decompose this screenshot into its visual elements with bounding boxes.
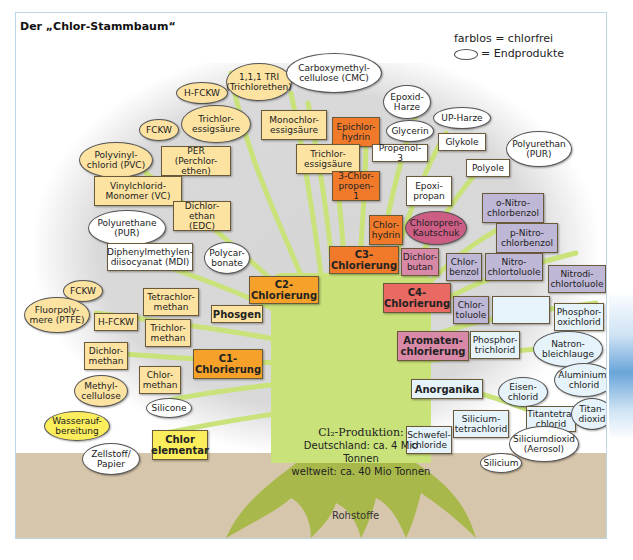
node-phosphorpentachlorid (492, 296, 550, 324)
node-polycarbonate: Polycar- bonate (204, 242, 250, 274)
legend-chlorfree: farblos = chlorfrei (454, 31, 564, 46)
legend-endproducts: = Endprodukte (481, 47, 564, 60)
node-c3-chlorierung: C3- Chlorierung (329, 246, 399, 274)
node-chlormethan: Chlor- methan (139, 366, 181, 394)
node-epoxidharze: Epoxid- Harze (383, 85, 431, 119)
node-nitrochlortoluole: Nitro- chlortoluole (485, 253, 543, 281)
node-pvc: Polyvinyl- chlorid (PVC) (79, 142, 153, 178)
node-siliciumtetrachlorid: Silicium- tetrachlorid (453, 410, 509, 438)
node-silicone: Silicone (146, 398, 192, 418)
oval-icon (454, 49, 478, 60)
node-silicium: Silicium (480, 453, 522, 473)
node-phosgen: Phosgen (211, 305, 263, 323)
diagram-frame: Der „Chlor-Stammbaum“ (15, 12, 607, 539)
node-chlorhydrin: Chlor- hydrin (369, 215, 403, 245)
node-chlorbenzol: Chlor- benzol (446, 253, 482, 281)
node-aluminiumchlorid: Aluminium- chlorid (554, 363, 607, 397)
production-summary: Cl₂-Produktion: Deutschland: ca. 4 Mio T… (291, 426, 431, 478)
node-eisenchlorid: Eisen- chlorid (498, 377, 548, 407)
node-zellstoff: Zellstoff/ Papier (82, 443, 140, 475)
node-fluorpolymere: Fluorpoly- mere (PTFE) (24, 297, 90, 333)
node-mdi: Diphenylmethylen- diisocyanat (MDI) (107, 243, 193, 271)
node-nitrodichlortoluole: Nitrodi- chlortoluole (548, 265, 606, 293)
node-chlorpropen: 3-Chlor- propen-1 (332, 171, 380, 201)
node-tetrachlormethan: Tetrachlor- methan (143, 288, 199, 316)
node-phosphortrichlorid: Phosphor- trichlorid (470, 331, 520, 359)
node-natronbleichlauge: Natron- bleichlauge (533, 331, 603, 367)
node-per: PER (Perchlor- ethen) (161, 146, 231, 176)
node-hfckw-top: H-FCKW (176, 82, 228, 104)
node-epoxipropan: Epoxi- propan (406, 176, 452, 206)
node-fckw-top: FCKW (139, 119, 179, 141)
node-epichlorhydrin: Epichlor- hydrin (332, 117, 380, 147)
node-phosphoroxichlorid: Phosphor- oxichlorid (554, 303, 604, 331)
node-pnitro: p-Nitro- chlorbenzol (496, 223, 558, 253)
node-pur-right: Polyurethan (PUR) (506, 131, 572, 167)
node-vc: Vinylchlorid- Monomer (VC) (94, 176, 182, 206)
node-dichlormethan: Dichlor- methan (84, 342, 128, 370)
node-tri: 1,1,1 TRI (Trichlorethen) (226, 63, 292, 101)
page-edge-decoration (609, 290, 633, 440)
node-onitro: o-Nitro- chlorbenzol (482, 193, 544, 223)
node-titandioxid: Titan- dioxid (571, 398, 607, 430)
node-edc: Dichlor- ethan (EDC) (173, 201, 231, 231)
node-upharze: UP-Harze (433, 107, 491, 129)
node-pur-left: Polyurethane (PUR) (88, 210, 166, 246)
node-c2-chlorierung: C2- Chlorierung (249, 276, 319, 304)
legend: farblos = chlorfrei = Endprodukte (454, 31, 564, 61)
node-c1-chlorierung: C1- Chlorierung (193, 349, 263, 379)
node-wasseraufbereitung: Wasserauf- bereitung (44, 411, 110, 441)
production-heading: Cl₂-Produktion: (291, 426, 431, 439)
roots-label: Rohstoffe (332, 510, 379, 521)
node-cmc: Carboxymethyl- cellulose (CMC) (286, 53, 382, 93)
node-trichloressig-box: Trichlor- essigsäure (296, 144, 360, 174)
node-methylcellulose: Methyl- cellulose (74, 375, 128, 407)
production-world: weltweit: ca. 40 Mio Tonnen (291, 465, 431, 478)
legend-endproducts-row: = Endprodukte (454, 46, 564, 61)
node-glykole: Glykole (438, 133, 486, 151)
node-anorganika: Anorganika (411, 379, 483, 399)
node-trichloressig-oval: Trichlor- essigsäure (181, 105, 251, 143)
node-aromatenchlorierung: Aromaten- chlorierung (397, 331, 469, 361)
node-chloropren: Chloropren- Kautschuk (405, 211, 467, 245)
node-chlor-elementar: Chlor elementar (152, 430, 208, 460)
node-polyole: Polyole (466, 159, 510, 177)
node-trichlormethan: Trichlor- methan (145, 319, 191, 347)
node-dichlorbutan: Dichlor- butan (401, 248, 439, 276)
node-c4-chlorierung: C4- Chlorierung (383, 283, 451, 313)
node-monochloressig: Monochlor- essigsäure (261, 110, 327, 140)
node-chlortoluole: Chlor- toluole (453, 296, 489, 324)
node-hfckw-left: H-FCKW (94, 313, 138, 331)
node-glycerin: Glycerin (386, 120, 434, 142)
node-propenol: Propenol-3 (372, 144, 428, 162)
node-siliciumdioxid: Siliciumdioxid (Aerosol) (509, 426, 579, 462)
production-germany: Deutschland: ca. 4 Mio Tonnen (291, 439, 431, 465)
